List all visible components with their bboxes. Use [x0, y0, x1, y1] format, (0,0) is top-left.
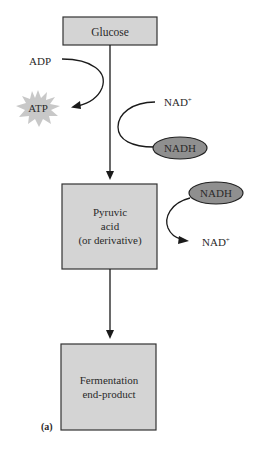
nad-plus-top-label: NAD+	[164, 96, 192, 108]
nadh-to-nad-reaction: NADH NAD+	[167, 182, 243, 248]
adp-to-atp-reaction: ADP ATP	[16, 55, 103, 127]
nadh-curve-arrow	[167, 198, 190, 239]
fermentation-diagram: Glucose ADP ATP NAD+ NADH Pyruvic acid (…	[0, 0, 260, 454]
nad-curve	[118, 102, 155, 147]
pyruvic-label-line1: Pyruvic	[93, 206, 127, 218]
pyruvic-label-line2: acid	[101, 220, 120, 232]
nadh-top-label: NADH	[164, 142, 196, 154]
fermentation-end-product-box: Fermentation end-product	[61, 344, 156, 430]
arrowhead-icon	[71, 101, 81, 109]
glucose-box: Glucose	[63, 17, 157, 45]
arrowhead-icon	[178, 236, 189, 244]
adp-curve-arrow	[62, 59, 103, 106]
nad-to-nadh-reaction: NAD+ NADH	[118, 96, 207, 159]
adp-label: ADP	[29, 55, 51, 67]
fermentation-label-line1: Fermentation	[80, 374, 139, 386]
fermentation-label-line2: end-product	[82, 388, 135, 400]
atp-label: ATP	[28, 102, 48, 114]
atp-starburst-icon: ATP	[16, 90, 60, 127]
pyruvic-acid-box: Pyruvic acid (or derivative)	[62, 184, 157, 269]
main-arrow-1	[106, 45, 114, 180]
glucose-label: Glucose	[91, 26, 129, 38]
main-arrow-2	[106, 269, 114, 339]
nadh-bottom-label: NADH	[200, 187, 232, 199]
pyruvic-label-line3: (or derivative)	[78, 234, 142, 247]
panel-label: (a)	[41, 421, 53, 433]
nad-plus-bottom-label: NAD+	[202, 236, 230, 248]
